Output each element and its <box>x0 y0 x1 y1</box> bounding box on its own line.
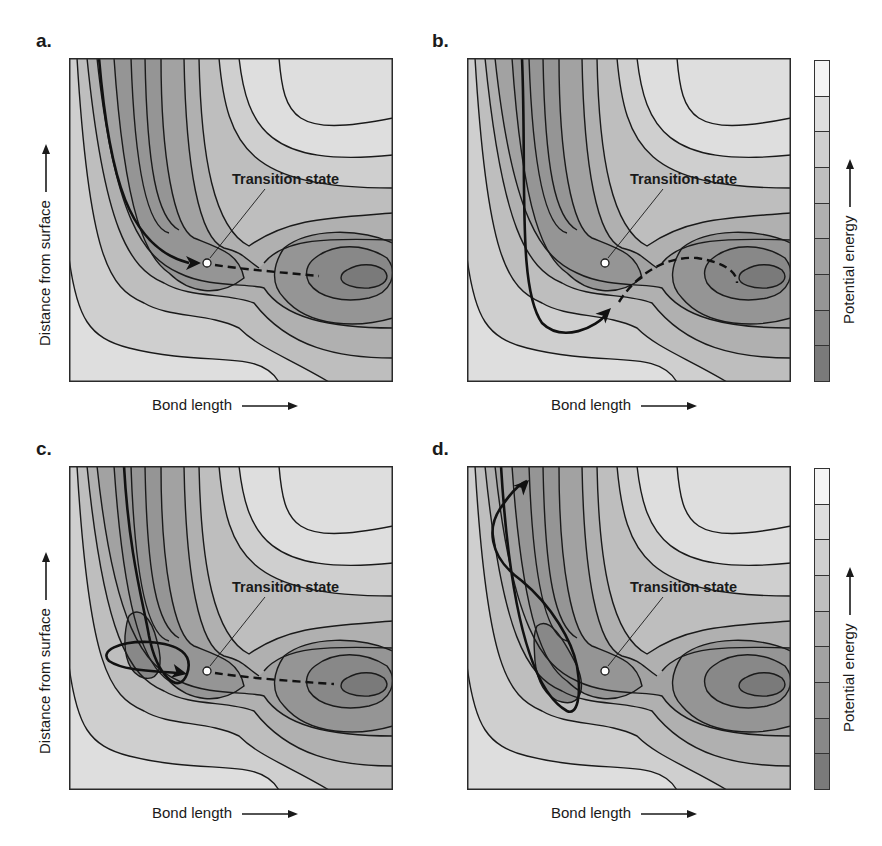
x-axis-label-text: Bond length <box>152 396 232 413</box>
transition-state-marker <box>601 259 609 267</box>
panel-a: a. Transition state Distance from surfac… <box>0 0 441 410</box>
colorbar-label: Potential energy <box>840 567 857 732</box>
colorbar-level-2 <box>815 311 829 347</box>
colorbar-label-text: Potential energy <box>840 624 857 732</box>
colorbar-level-7 <box>815 540 829 576</box>
panel-label: d. <box>432 438 449 460</box>
x-axis-label: Bond length <box>551 804 697 821</box>
colorbar-level-5 <box>815 204 829 240</box>
x-axis-label: Bond length <box>551 396 697 413</box>
arrow-right-icon <box>635 401 697 411</box>
colorbar-label-text: Potential energy <box>840 216 857 324</box>
y-axis-label: Distance from surface <box>36 552 53 754</box>
potential-energy-colorbar <box>814 60 830 382</box>
x-axis-label-text: Bond length <box>551 396 631 413</box>
transition-state-label: Transition state <box>232 171 339 187</box>
contour-plot: Transition state <box>467 466 791 790</box>
colorbar-level-8 <box>815 505 829 541</box>
x-axis-label-text: Bond length <box>551 804 631 821</box>
potential-energy-surface: Transition state <box>467 466 791 790</box>
arrow-right-icon <box>41 144 51 196</box>
panel-label: a. <box>36 30 52 52</box>
colorbar-level-1 <box>815 754 829 789</box>
panel-d: d. Transition state Bond length Potentia… <box>441 423 882 833</box>
colorbar-level-1 <box>815 346 829 381</box>
colorbar-level-4 <box>815 647 829 683</box>
contour-plot: Transition state <box>69 466 393 790</box>
contour-plot: Transition state <box>69 58 393 382</box>
colorbar-level-8 <box>815 97 829 133</box>
colorbar-level-3 <box>815 683 829 719</box>
arrow-up-icon <box>845 567 855 619</box>
arrow-right-icon <box>635 809 697 819</box>
panel-label: b. <box>432 30 449 52</box>
transition-state-marker <box>601 667 609 675</box>
x-axis-label-text: Bond length <box>152 804 232 821</box>
arrow-right-icon <box>236 809 298 819</box>
colorbar-level-5 <box>815 612 829 648</box>
transition-state-label: Transition state <box>630 579 737 595</box>
panel-c: c. Transition state Distance from surfac… <box>0 423 441 833</box>
y-axis-label-text: Distance from surface <box>36 200 53 346</box>
arrow-up-icon <box>845 159 855 211</box>
colorbar-level-6 <box>815 576 829 612</box>
colorbar-level-9 <box>815 61 829 97</box>
y-axis-label: Distance from surface <box>36 144 53 346</box>
panel-b: b. Transition state Bond length Potentia… <box>441 0 882 410</box>
x-axis-label: Bond length <box>152 396 298 413</box>
arrow-right-icon <box>41 552 51 604</box>
colorbar-level-7 <box>815 132 829 168</box>
contour-plot: Transition state <box>467 58 791 382</box>
x-axis-label: Bond length <box>152 804 298 821</box>
potential-energy-surface: Transition state <box>467 58 791 382</box>
colorbar-level-6 <box>815 168 829 204</box>
colorbar-level-4 <box>815 239 829 275</box>
potential-energy-surface: Transition state <box>69 466 393 790</box>
colorbar-level-2 <box>815 719 829 755</box>
colorbar-label: Potential energy <box>840 159 857 324</box>
arrow-right-icon <box>236 401 298 411</box>
y-axis-label-text: Distance from surface <box>36 608 53 754</box>
transition-state-label: Transition state <box>630 171 737 187</box>
potential-energy-surface: Transition state <box>69 58 393 382</box>
colorbar-level-3 <box>815 275 829 311</box>
transition-state-label: Transition state <box>232 579 339 595</box>
colorbar-level-9 <box>815 469 829 505</box>
panel-label: c. <box>36 438 52 460</box>
transition-state-marker <box>203 259 211 267</box>
potential-energy-colorbar <box>814 468 830 790</box>
transition-state-marker <box>203 667 211 675</box>
